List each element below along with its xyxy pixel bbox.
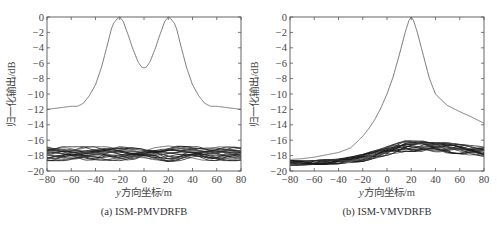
y-tick-label: −20	[271, 166, 287, 177]
x-tick-label: −60	[306, 174, 322, 185]
x-tick-label: −40	[87, 174, 103, 185]
x-tick-label: −40	[330, 174, 346, 185]
x-tick-label: 40	[430, 174, 441, 185]
panel-b-x-axis-title: y方向坐标/m	[358, 186, 415, 198]
y-tick-label: −16	[28, 135, 44, 146]
y-tick-label: −4	[276, 42, 288, 53]
x-tick-label: 20	[406, 174, 417, 185]
y-tick-label: −14	[271, 119, 288, 130]
y-tick-label: −10	[271, 89, 287, 100]
y-tick-label: 0	[39, 12, 44, 23]
y-tick-label: −12	[271, 104, 287, 115]
y-tick-label: −12	[28, 104, 44, 115]
y-tick-label: −6	[33, 58, 44, 69]
y-tick-label: −20	[28, 166, 44, 177]
x-tick-label: 60	[455, 174, 466, 185]
y-tick-label: −10	[28, 89, 44, 100]
x-tick-label: −20	[355, 174, 371, 185]
panel-b-interference-band	[290, 141, 484, 165]
panel-b-main-beam-line	[290, 17, 484, 159]
panel-a-main-beam-line	[47, 17, 241, 109]
x-tick-label: 60	[212, 174, 223, 185]
figure: −80−60−40−200204060800−2−4−6−8−10−12−14−…	[0, 0, 502, 229]
y-tick-label: −2	[33, 27, 44, 38]
y-tick-label: −8	[33, 73, 44, 84]
y-tick-label: −6	[276, 58, 287, 69]
panel-a-interference-band	[47, 146, 241, 161]
panel-a-chart: −80−60−40−200204060800−2−4−6−8−10−12−14−…	[5, 12, 246, 219]
y-tick-label: −8	[276, 73, 287, 84]
x-tick-label: 0	[141, 174, 146, 185]
panel-a-caption: (a) ISM-PMVDRFB	[101, 206, 188, 218]
x-tick-label: 40	[187, 174, 198, 185]
x-tick-label: 0	[384, 174, 389, 185]
y-tick-label: −18	[28, 150, 44, 161]
panel-a-x-axis-title: y方向坐标/m	[115, 186, 172, 198]
y-tick-label: 0	[282, 12, 287, 23]
x-tick-label: 80	[479, 174, 490, 185]
x-tick-label: −20	[112, 174, 128, 185]
y-tick-label: −4	[33, 42, 45, 53]
panel-b-y-axis-title: 归一化输出/dB	[248, 61, 260, 126]
y-tick-label: −14	[28, 119, 45, 130]
panel-a-y-axis-title: 归一化输出/dB	[5, 61, 17, 126]
x-tick-label: 20	[163, 174, 174, 185]
y-tick-label: −18	[271, 150, 287, 161]
x-tick-label: −60	[63, 174, 79, 185]
y-tick-label: −2	[276, 27, 287, 38]
x-tick-label: 80	[236, 174, 247, 185]
y-tick-label: −16	[271, 135, 287, 146]
panel-b-chart: −80−60−40−200204060800−2−4−6−8−10−12−14−…	[248, 12, 489, 219]
panel-b-caption: (b) ISM-VMVDRFB	[343, 206, 432, 218]
